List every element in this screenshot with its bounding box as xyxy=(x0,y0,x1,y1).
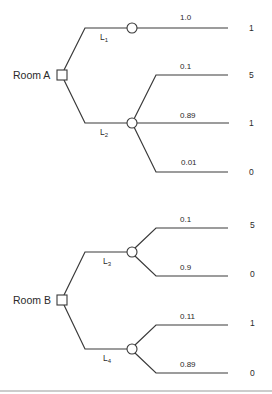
lottery-label-l3: L3 xyxy=(103,256,112,267)
chance-node-l1 xyxy=(127,23,137,33)
decision-tree-diagram: Room A L1 L2 1.0 1 0.1 0.89 0.01 5 1 0 R… xyxy=(0,0,272,394)
payoff-label: 0 xyxy=(250,269,255,279)
branch-l4 xyxy=(64,305,127,349)
tree-room-b: Room B L3 L4 0.1 0.9 5 0 0.11 0.89 1 0 xyxy=(13,215,255,378)
branch-l2 xyxy=(64,80,127,123)
outcome-edge xyxy=(135,228,228,248)
payoff-label: 1 xyxy=(249,118,254,128)
probability-label: 0.01 xyxy=(181,158,197,167)
payoff-label: 5 xyxy=(249,70,254,80)
chance-node-l4 xyxy=(127,344,137,354)
decision-label-room-a: Room A xyxy=(13,69,50,81)
branch-l3 xyxy=(64,252,127,295)
branch-l1 xyxy=(64,28,127,70)
payoff-label: 1 xyxy=(249,23,254,33)
chance-node-l3 xyxy=(127,247,137,257)
probability-label: 0.1 xyxy=(180,62,192,71)
probability-label: 1.0 xyxy=(180,13,192,22)
outcome-edge xyxy=(135,325,228,345)
probability-label: 0.9 xyxy=(180,263,192,272)
decision-label-room-b: Room B xyxy=(13,294,51,306)
probability-label: 0.11 xyxy=(180,312,196,321)
payoff-label: 5 xyxy=(250,220,255,230)
probability-label: 0.89 xyxy=(180,360,196,369)
lottery-label-l2: L2 xyxy=(100,127,109,138)
payoff-label: 0 xyxy=(249,167,254,177)
decision-node-room-b xyxy=(57,295,67,305)
payoff-label: 0 xyxy=(250,368,255,378)
lottery-label-l4: L4 xyxy=(103,353,112,364)
lottery-label-l1: L1 xyxy=(100,32,109,43)
tree-room-a: Room A L1 L2 1.0 1 0.1 0.89 0.01 5 1 0 xyxy=(13,13,254,177)
probability-label: 0.89 xyxy=(180,111,196,120)
payoff-label: 1 xyxy=(250,318,255,328)
decision-node-room-a xyxy=(57,70,67,80)
chance-node-l2 xyxy=(127,118,137,128)
probability-label: 0.1 xyxy=(180,215,192,224)
